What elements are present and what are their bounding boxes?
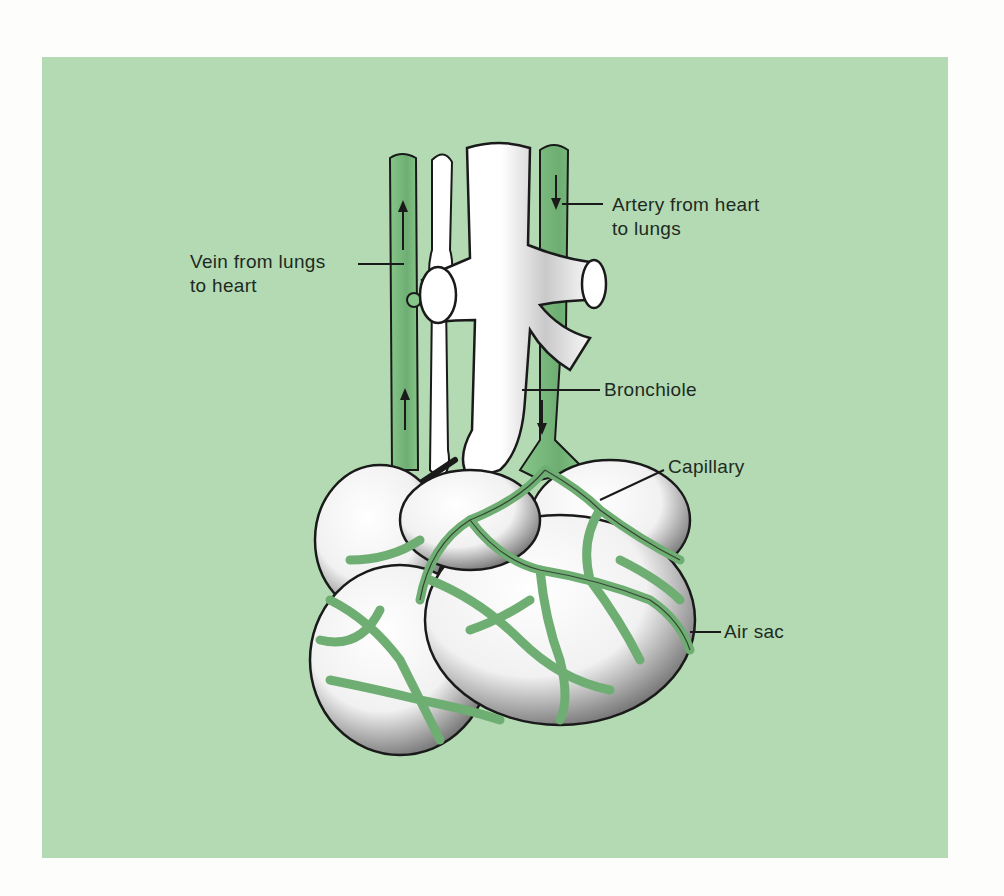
bronchiole-label-text: Bronchiole [604,379,697,400]
alveoli-illustration [0,0,1004,896]
capillary-label-text: Capillary [668,456,745,477]
bronchiole-label: Bronchiole [604,378,697,402]
artery-label-line-2: to lungs [612,217,760,241]
artery-label: Artery from heart to lungs [612,193,760,241]
vein-vessel [390,154,421,470]
vein-label: Vein from lungs to heart [190,250,325,298]
vein-label-line-2: to heart [190,274,325,298]
vein-label-line-1: Vein from lungs [190,250,325,274]
capillary-label: Capillary [668,455,745,479]
air-sac-label-text: Air sac [724,621,784,642]
artery-label-line-1: Artery from heart [612,193,760,217]
air-sac-label: Air sac [724,620,784,644]
